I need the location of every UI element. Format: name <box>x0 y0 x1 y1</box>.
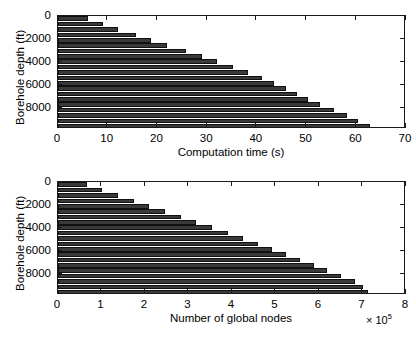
bar <box>58 268 327 273</box>
y-tick-mark <box>400 181 405 182</box>
bar <box>58 97 308 102</box>
y-tick-mark <box>400 273 405 274</box>
y-tick-mark <box>400 38 405 39</box>
x-tick-mark <box>255 15 256 20</box>
x-tick-mark <box>361 289 362 294</box>
x-axis-title-top: Computation time (s) <box>178 146 285 158</box>
x-tick-label: 30 <box>200 132 213 144</box>
x-tick-mark <box>187 181 188 186</box>
y-tick-mark <box>57 181 62 182</box>
bar <box>58 92 297 97</box>
x-tick-label: 3 <box>184 298 190 310</box>
x-tick-mark <box>106 15 107 20</box>
x-tick-label: 0 <box>54 298 60 310</box>
y-tick-mark <box>57 227 62 228</box>
bar <box>58 252 286 257</box>
x-tick-label: 4 <box>228 298 234 310</box>
bar <box>58 290 368 293</box>
x-tick-mark <box>206 15 207 20</box>
x-tick-mark <box>187 289 188 294</box>
x-tick-mark <box>405 123 406 128</box>
bar <box>58 242 258 247</box>
bar <box>58 279 355 284</box>
x-tick-mark <box>355 123 356 128</box>
chart-panel-computation-time: 01020304050607002000400060008000 Computa… <box>0 0 416 170</box>
y-tick-mark <box>400 15 405 16</box>
bar <box>58 204 149 209</box>
x-tick-mark <box>57 123 58 128</box>
bar <box>58 59 217 64</box>
bar <box>58 76 262 81</box>
bar <box>58 236 243 241</box>
x-tick-label: 10 <box>100 132 113 144</box>
x-tick-label: 1 <box>97 298 103 310</box>
x-tick-label: 60 <box>349 132 362 144</box>
y-tick-mark <box>57 250 62 251</box>
y-tick-mark <box>57 204 62 205</box>
x-tick-mark <box>100 181 101 186</box>
x-tick-mark <box>318 289 319 294</box>
x-tick-label: 0 <box>54 132 60 144</box>
axes-bottom <box>57 181 405 294</box>
bar <box>58 247 272 252</box>
bar <box>58 16 88 21</box>
bar <box>58 274 341 279</box>
x-tick-mark <box>361 181 362 186</box>
bar <box>58 188 102 193</box>
x-tick-label: 70 <box>399 132 412 144</box>
bar <box>58 33 136 38</box>
bar <box>58 49 186 54</box>
bar <box>58 70 248 75</box>
exponent-power: 5 <box>388 312 392 321</box>
y-tick-mark <box>57 15 62 16</box>
x-tick-label: 20 <box>150 132 163 144</box>
bar <box>58 182 87 187</box>
x-tick-mark <box>57 181 58 186</box>
chart-panel-global-nodes: 01234567802000400060008000 Number of glo… <box>0 166 416 338</box>
y-tick-label: 0 <box>0 9 51 21</box>
y-tick-mark <box>400 84 405 85</box>
x-axis-title-bottom: Number of global nodes <box>170 312 292 324</box>
bar <box>58 113 347 118</box>
axes-top <box>57 15 405 128</box>
bar <box>58 108 334 113</box>
x-tick-mark <box>231 181 232 186</box>
x-tick-label: 8 <box>402 298 408 310</box>
y-tick-mark <box>57 61 62 62</box>
bar <box>58 119 358 124</box>
x-tick-label: 5 <box>271 298 277 310</box>
y-tick-mark <box>400 250 405 251</box>
x-tick-mark <box>318 181 319 186</box>
bar <box>58 199 134 204</box>
x-tick-label: 7 <box>358 298 364 310</box>
x-tick-mark <box>405 289 406 294</box>
y-tick-mark <box>57 38 62 39</box>
y-tick-mark <box>57 273 62 274</box>
bar <box>58 27 118 32</box>
bar <box>58 38 151 43</box>
y-tick-mark <box>400 61 405 62</box>
x-tick-mark <box>206 123 207 128</box>
x-tick-mark <box>405 181 406 186</box>
y-tick-mark <box>400 204 405 205</box>
bar <box>58 81 274 86</box>
y-tick-mark <box>57 84 62 85</box>
x-tick-mark <box>274 289 275 294</box>
bar <box>58 86 286 91</box>
x-tick-mark <box>57 15 58 20</box>
x-tick-mark <box>57 289 58 294</box>
bar <box>58 65 233 70</box>
x-tick-mark <box>305 15 306 20</box>
x-tick-mark <box>144 181 145 186</box>
x-tick-mark <box>231 289 232 294</box>
x-tick-mark <box>255 123 256 128</box>
y-tick-mark <box>400 227 405 228</box>
x-tick-mark <box>156 123 157 128</box>
x-tick-mark <box>405 15 406 20</box>
bar <box>58 22 103 27</box>
bar <box>58 209 165 214</box>
figure-canvas: 01020304050607002000400060008000 Computa… <box>0 0 416 338</box>
x-tick-mark <box>305 123 306 128</box>
y-tick-mark <box>400 107 405 108</box>
bar <box>58 215 181 220</box>
